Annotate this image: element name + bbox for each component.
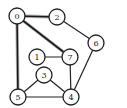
node-label: 2: [54, 13, 59, 22]
node-2: 2: [49, 9, 65, 25]
graph-canvas: 01234567: [0, 0, 127, 108]
edge-0-5: [17, 16, 18, 97]
node-6: 6: [88, 35, 104, 51]
node-7: 7: [62, 49, 78, 65]
node-4: 4: [63, 89, 79, 105]
node-label: 5: [15, 93, 20, 102]
node-label: 3: [41, 71, 46, 80]
node-1: 1: [29, 49, 45, 65]
node-label: 0: [14, 12, 19, 21]
node-label: 6: [93, 39, 98, 48]
node-label: 7: [67, 53, 72, 62]
node-0: 0: [9, 8, 25, 24]
node-label: 4: [68, 93, 73, 102]
node-label: 1: [34, 53, 39, 62]
node-5: 5: [10, 89, 26, 105]
node-3: 3: [36, 67, 52, 83]
